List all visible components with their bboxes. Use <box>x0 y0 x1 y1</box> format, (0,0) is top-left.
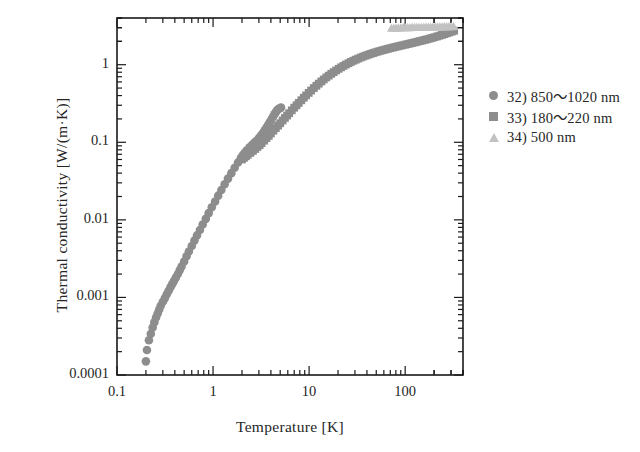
triangle-marker-icon <box>487 128 500 146</box>
legend-item: 33) 180～220 nm <box>487 107 637 125</box>
y-tick-label: 1 <box>31 55 109 72</box>
x-tick-label: 100 <box>375 383 435 400</box>
square-marker-icon <box>487 107 500 125</box>
legend-item-label: 33) 180～220 nm <box>507 106 612 127</box>
x-tick-label: 0.1 <box>87 383 147 400</box>
legend-item: 32) 850～1020 nm <box>487 86 637 104</box>
legend-item-label: 32) 850～1020 nm <box>507 85 620 106</box>
chart-figure: Thermal conductivity [W/(m·K)] Temperatu… <box>0 0 640 452</box>
legend-item: 34) 500 nm <box>487 128 637 146</box>
chart-legend: 32) 850～1020 nm 33) 180～220 nm 34) 500 n… <box>487 86 637 149</box>
x-tick-label: 1 <box>183 383 243 400</box>
y-tick-label: 0.001 <box>31 287 109 304</box>
legend-item-label: 34) 500 nm <box>507 129 576 146</box>
y-tick-label: 0.0001 <box>31 365 109 382</box>
x-tick-label: 10 <box>279 383 339 400</box>
x-axis-title: Temperature [K] <box>117 418 463 436</box>
y-tick-label: 0.1 <box>31 132 109 149</box>
y-tick-label: 0.01 <box>31 210 109 227</box>
circle-marker-icon <box>487 86 500 104</box>
y-axis-title: Thermal conductivity [W/(m·K)] <box>53 25 71 385</box>
